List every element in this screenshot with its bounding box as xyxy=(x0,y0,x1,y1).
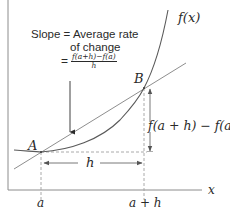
curve-label: f(x) xyxy=(178,10,200,25)
horizontal-span-label: h xyxy=(86,155,94,170)
fraction-denominator: h xyxy=(91,62,96,70)
average-rate-of-change-diagram: Slope = Average rate of change = f(a+h)−… xyxy=(0,0,230,214)
slope-annotation-line1: Slope = Average rate xyxy=(31,28,139,40)
x-tick-a-plus-h: a + h xyxy=(129,196,162,210)
secant-line xyxy=(14,63,186,169)
slope-annotation-fraction: f(a+h)−f(a) h xyxy=(71,52,117,70)
point-b-marker xyxy=(143,87,145,89)
slope-annotation-equals: = xyxy=(61,54,68,68)
point-a-label: A xyxy=(28,138,37,153)
point-a-marker xyxy=(40,151,42,153)
x-tick-a: a xyxy=(37,196,44,210)
point-b-label: B xyxy=(134,71,144,86)
x-axis-label: x xyxy=(208,183,215,197)
vertical-span-label: f(a + h) − f(a) xyxy=(148,118,230,133)
